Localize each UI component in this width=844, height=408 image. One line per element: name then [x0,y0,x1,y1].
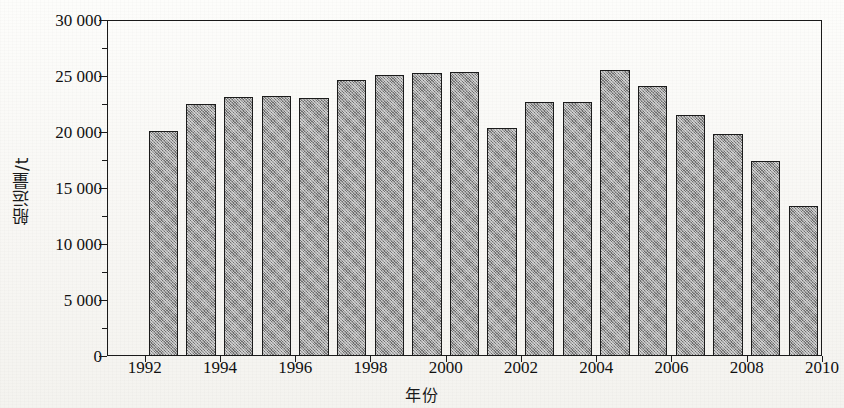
bar [412,73,441,356]
bar [789,206,818,356]
y-axis-tick-labels: 05 00010 00015 00020 00025 00030 000 [0,0,102,408]
y-axis-tick-mark-major [99,20,107,21]
x-axis-tick-label: 2008 [712,358,782,378]
bar [262,96,291,356]
y-axis-tick-mark-major [99,188,107,189]
x-axis-tick-label: 2004 [561,358,631,378]
bars-layer [107,20,822,356]
x-axis-tick-label: 2002 [486,358,556,378]
bar [337,80,366,356]
bar [713,134,742,356]
bar [525,102,554,356]
y-axis-tick-mark-major [99,300,107,301]
y-axis-tick-label: 30 000 [2,12,102,29]
x-axis-tick-label: 1998 [335,358,405,378]
bar [563,102,592,356]
x-axis-title: 年份 [0,382,844,406]
y-axis-tick-label: 25 000 [2,68,102,85]
x-axis-tick-label: 1994 [185,358,255,378]
bar [450,72,479,356]
y-axis-tick-label: 5 000 [2,292,102,309]
bar [149,131,178,356]
y-axis-tick-mark-major [99,132,107,133]
y-axis-tick-label: 15 000 [2,180,102,197]
bar [600,70,629,356]
y-axis-tick-label: 20 000 [2,124,102,141]
x-axis-tick-label: 2000 [411,358,481,378]
x-axis-tick-label: 1992 [110,358,180,378]
bar-chart: 船运量/t 05 00010 00015 00020 00025 00030 0… [0,0,844,408]
bar [487,128,516,356]
x-axis-tick-label: 1996 [260,358,330,378]
bar [186,104,215,356]
bar [224,97,253,356]
x-axis-tick-label: 2010 [787,358,844,378]
bar [638,86,667,356]
x-axis-tick-labels: 1992199419961998200020022004200620082010 [0,358,844,384]
y-axis-tick-mark-major [99,76,107,77]
bar [299,98,328,356]
bar [375,75,404,356]
bar [751,161,780,356]
x-axis-tick-label: 2006 [636,358,706,378]
y-axis-tick-mark-major [99,244,107,245]
bar [676,115,705,356]
y-axis-tick-label: 10 000 [2,236,102,253]
